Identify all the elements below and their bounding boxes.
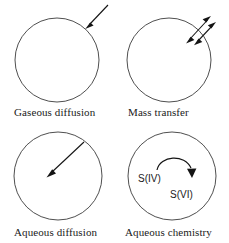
panel-aqueous-diffusion: Aqueous diffusion [14, 132, 102, 238]
caption-gaseous-diffusion: Gaseous diffusion [14, 106, 96, 118]
caption-aqueous-diffusion: Aqueous diffusion [14, 226, 97, 238]
inward-aqueous-arrow [47, 142, 85, 178]
panel-gaseous-diffusion: Gaseous diffusion [14, 5, 108, 118]
mass-transfer-arrow-b [194, 22, 216, 45]
caption-aqueous-chemistry: Aqueous chemistry [125, 226, 212, 238]
inbound-gas-arrow [85, 5, 108, 29]
caption-mass-transfer: Mass transfer [128, 106, 189, 118]
droplet-process-figure: Gaseous diffusion Mass transfer Aqueous … [0, 0, 229, 243]
droplet-circle-gaseous [15, 18, 99, 102]
droplet-circle-aqueous-diffusion [14, 132, 102, 220]
species-label-s6: S(VI) [170, 189, 193, 200]
panel-aqueous-chemistry: S(IV) S(VI) Aqueous chemistry [125, 132, 216, 238]
oxidation-arc-arrow [157, 158, 196, 178]
species-label-s4: S(IV) [138, 173, 161, 184]
panel-mass-transfer: Mass transfer [127, 16, 216, 118]
